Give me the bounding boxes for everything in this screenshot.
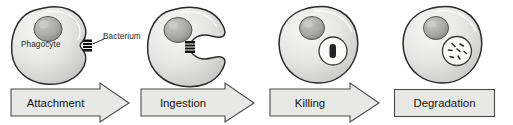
phagocytosis-diagram: Phagocyte Bacterium Attachment [0,0,513,125]
stage-killing: Killing [262,0,392,125]
ingestion-step-text: Ingestion [141,97,225,109]
stage-degradation: Degradation [386,0,513,125]
ingestion-label-wrap: Ingestion [141,90,225,116]
attachment-label-wrap: Attachment [11,90,100,116]
stage-ingestion: Ingestion [133,0,266,125]
degradation-label-wrap: Degradation [394,90,495,116]
degradation-step-text: Degradation [394,97,495,109]
killing-step-text: Killing [270,97,350,109]
stage-attachment: Phagocyte Bacterium Attachment [0,0,140,125]
killing-label-wrap: Killing [270,90,350,116]
attachment-step-text: Attachment [11,97,100,109]
